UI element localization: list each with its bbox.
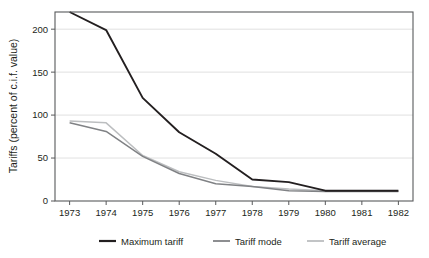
x-axis-ticks: 1973197419751976197719781979198019811982 <box>59 201 409 218</box>
x-tick-label: 1978 <box>242 207 263 218</box>
y-tick-label: 150 <box>32 67 48 78</box>
x-tick-label: 1975 <box>132 207 153 218</box>
x-tick-label: 1973 <box>59 207 80 218</box>
x-tick-label: 1982 <box>388 207 409 218</box>
x-tick-label: 1979 <box>278 207 299 218</box>
chart-legend: Maximum tariffTariff modeTariff average <box>99 236 386 247</box>
plot-background <box>55 12 413 201</box>
x-tick-label: 1974 <box>96 207 117 218</box>
legend-label-maximum-tariff: Maximum tariff <box>121 236 183 247</box>
y-axis-title: Tariffs (percent of c.i.f. value) <box>7 39 19 174</box>
legend-label-tariff-average: Tariff average <box>329 236 386 247</box>
x-tick-label: 1980 <box>315 207 336 218</box>
legend-label-tariff-mode: Tariff mode <box>235 236 282 247</box>
y-tick-label: 50 <box>37 152 48 163</box>
y-tick-label: 200 <box>32 24 48 35</box>
chart-figure: 050100150200 197319741975197619771978197… <box>0 0 429 258</box>
y-tick-label: 100 <box>32 109 48 120</box>
y-tick-label: 0 <box>43 195 48 206</box>
x-tick-label: 1977 <box>205 207 226 218</box>
x-tick-label: 1976 <box>169 207 190 218</box>
y-axis-ticks: 050100150200 <box>32 24 55 207</box>
x-tick-label: 1981 <box>351 207 372 218</box>
tariffs-line-chart: 050100150200 197319741975197619771978197… <box>0 0 429 258</box>
